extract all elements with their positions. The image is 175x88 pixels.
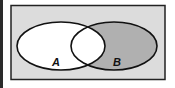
set-b-label: B [113,56,121,68]
venn-diagram: A B [0,0,175,88]
set-a-label: A [51,56,60,68]
